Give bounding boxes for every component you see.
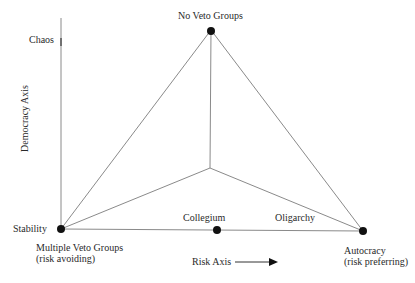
- edge-left-right: [61, 229, 363, 231]
- risk-axis-arrowhead-icon: [269, 258, 278, 266]
- risk-preferring-label: (risk preferring): [344, 256, 408, 268]
- spoke-top-center: [210, 30, 211, 168]
- risk-avoiding-label: (risk avoiding): [36, 253, 95, 265]
- node-autocracy: [359, 227, 367, 235]
- risk-axis-label: Risk Axis: [192, 256, 231, 268]
- chaos-label: Chaos: [29, 34, 54, 46]
- node-collegium: [213, 226, 221, 234]
- node-stability: [57, 225, 65, 233]
- no-veto-groups-label: No Veto Groups: [178, 10, 243, 22]
- node-no-veto-groups: [207, 27, 215, 35]
- collegium-label: Collegium: [183, 212, 225, 224]
- edge-left-top: [61, 30, 211, 229]
- stability-label: Stability: [13, 223, 47, 235]
- oligarchy-label: Oligarchy: [275, 212, 315, 224]
- democracy-axis-label: Democracy Axis: [19, 85, 30, 152]
- diagram-canvas: [0, 0, 415, 283]
- edge-top-right: [211, 30, 363, 231]
